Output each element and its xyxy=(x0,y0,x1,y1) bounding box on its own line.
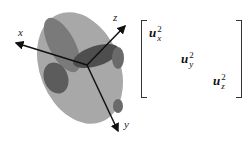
ellipsoid-body xyxy=(21,0,139,137)
right-bracket xyxy=(236,20,242,98)
z-axis-label: z xyxy=(113,11,117,23)
x-axis-label: x xyxy=(18,26,23,38)
y-axis-label: y xyxy=(124,118,129,130)
matrix-entry-ux2: u2x xyxy=(149,25,162,43)
figure: x z y u2x u2y u2z xyxy=(0,0,249,143)
matrix-entry-uz2: u2z xyxy=(213,73,226,91)
diagonal-matrix: u2x u2y u2z xyxy=(141,20,249,96)
ellipsoid-edge-right xyxy=(112,47,124,69)
left-bracket xyxy=(141,20,147,98)
matrix-entry-uy2: u2y xyxy=(181,51,194,69)
ellipsoid-edge-bottom xyxy=(113,99,123,113)
